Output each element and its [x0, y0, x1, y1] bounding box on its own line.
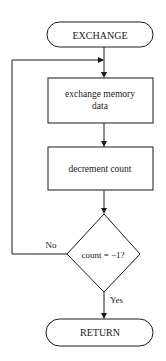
- process-label: decrement count: [68, 164, 131, 174]
- no-branch-label: No: [46, 240, 57, 250]
- process-label-line1: exchange memory: [65, 89, 135, 99]
- end-terminal: RETURN: [46, 319, 153, 346]
- flowchart: EXCHANGE exchange memory data decrement …: [0, 0, 166, 361]
- start-terminal: EXCHANGE: [47, 22, 153, 47]
- end-label: RETURN: [80, 327, 120, 338]
- start-label: EXCHANGE: [73, 30, 128, 41]
- process-exchange-memory-data: exchange memory data: [48, 78, 153, 123]
- process-decrement-count: decrement count: [48, 147, 153, 190]
- decision-label: count = −1?: [81, 250, 124, 260]
- yes-branch-label: Yes: [110, 295, 124, 305]
- process-label-line2: data: [92, 101, 109, 111]
- decision-count-check: count = −1?: [67, 214, 140, 292]
